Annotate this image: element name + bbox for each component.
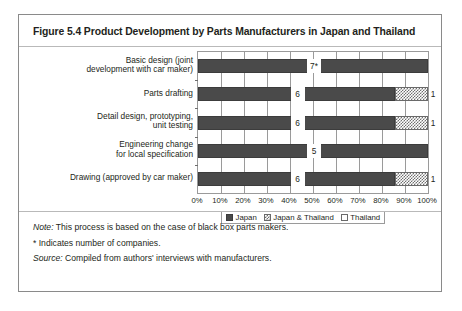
category-label: Basic design (jointdevelopment with car … — [25, 56, 193, 75]
bar-segment-japan-thailand — [395, 116, 428, 130]
bar-row: 61 — [198, 172, 428, 186]
category-label: Parts drafting — [25, 89, 193, 99]
category-tick — [195, 108, 198, 109]
category-label-line: Parts drafting — [25, 89, 193, 99]
plot-area: 7*6161561 — [197, 51, 429, 194]
bar-value-label: 1 — [429, 172, 437, 186]
figure-title: Figure 5.4 Product Development by Parts … — [33, 26, 433, 37]
bar-row: 61 — [198, 116, 428, 130]
note-line-source: Source: Compiled from authors' interview… — [33, 251, 431, 267]
bar-value-label: 7* — [307, 59, 321, 73]
bar-value-label: 5 — [307, 144, 321, 158]
note-text: This process is based on the case of bla… — [54, 222, 289, 232]
note-line-note: Note: This process is based on the case … — [33, 220, 431, 236]
category-tick — [195, 165, 198, 166]
bar-value-label: 1 — [429, 116, 437, 130]
notes-divider — [19, 211, 441, 212]
title-divider — [19, 46, 441, 47]
category-tick — [195, 80, 198, 81]
bar-segment-japan-thailand — [395, 172, 428, 186]
figure-notes: Note: This process is based on the case … — [33, 220, 431, 267]
category-tick — [195, 137, 198, 138]
category-label: Engineering changefor local specificatio… — [25, 140, 193, 159]
category-label-line: for local specification — [25, 150, 193, 160]
bar-value-label: 6 — [291, 87, 305, 101]
category-label-line: unit testing — [25, 121, 193, 131]
bar-value-label: 6 — [291, 116, 305, 130]
note-line-asterisk: * Indicates number of companies. — [33, 236, 431, 252]
category-label-line: development with car maker) — [25, 65, 193, 75]
category-label: Drawing (approved by car maker) — [25, 173, 193, 183]
bar-row: 7* — [198, 59, 428, 73]
figure-container: Figure 5.4 Product Development by Parts … — [18, 14, 442, 292]
category-label-line: Drawing (approved by car maker) — [25, 173, 193, 183]
bar-value-label: 1 — [429, 87, 437, 101]
bar-row: 5 — [198, 144, 428, 158]
source-text: Compiled from authors' interviews with m… — [63, 253, 272, 263]
bar-segment-japan-thailand — [395, 87, 428, 101]
bar-row: 61 — [198, 87, 428, 101]
x-axis: 0%10%20%30%40%50%60%70%80%90%100% — [197, 196, 429, 208]
source-label: Source: — [33, 253, 63, 263]
bar-value-label: 6 — [291, 172, 305, 186]
category-label: Detail design, prototyping,unit testing — [25, 112, 193, 131]
x-tick-label: 100% — [414, 196, 440, 205]
note-label: Note: — [33, 222, 54, 232]
category-axis-labels: Basic design (jointdevelopment with car … — [25, 51, 193, 194]
chart-area: Basic design (jointdevelopment with car … — [25, 51, 435, 211]
